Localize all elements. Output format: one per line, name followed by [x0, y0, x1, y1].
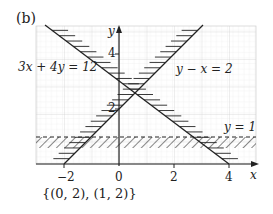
y-tick-4: 4 [108, 46, 116, 60]
x-tick-0: 0 [115, 170, 123, 184]
y-axis-label: y [108, 24, 115, 38]
answer-text: {(0, 2), (1, 2)} [42, 186, 137, 201]
label-3x-plus-4y: 3x + 4y = 12 [18, 60, 97, 74]
panel-label: (b) [16, 10, 36, 26]
y-tick-2: 2 [108, 101, 116, 115]
line-y-equals-1 [36, 137, 256, 148]
x-tick-4: 4 [225, 170, 233, 184]
x-tick-2: 2 [170, 170, 178, 184]
label-y-minus-x: y − x = 2 [176, 62, 233, 76]
x-tick-neg2: −2 [57, 170, 75, 184]
label-y-equals-1: y = 1 [224, 120, 256, 134]
x-axis-label: x [250, 168, 257, 182]
